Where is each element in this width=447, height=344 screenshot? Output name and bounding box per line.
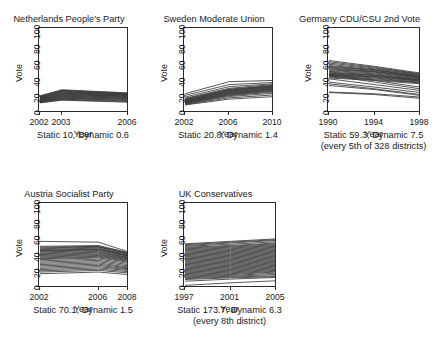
- series-line: [329, 73, 419, 80]
- y-tick-mark: [180, 61, 183, 62]
- series-line: [185, 248, 275, 252]
- series-line: [185, 281, 275, 286]
- series-line: [329, 76, 419, 82]
- x-tick-mark: [275, 287, 276, 290]
- series-line: [185, 243, 275, 247]
- series-line: [329, 73, 419, 80]
- series-line: [40, 255, 127, 260]
- series-line: [40, 264, 127, 268]
- y-tick-label: 60: [32, 236, 42, 246]
- series-line: [329, 79, 419, 91]
- x-axis-title: Year: [38, 129, 128, 139]
- panel-caption: Static 59.3, Dynamic 7.5: [295, 130, 447, 141]
- y-tick-mark: [35, 220, 38, 221]
- panel-netherlands-peoples-party: Netherlands People's Party020406080100Vo…: [0, 0, 447, 344]
- series-line: [40, 258, 127, 262]
- plot-area-austria-socialist-party: [38, 202, 128, 287]
- series-line: [185, 264, 275, 268]
- x-tick-mark: [272, 112, 273, 115]
- series-line: [40, 269, 127, 271]
- series-line: [329, 75, 419, 82]
- series-line: [185, 251, 275, 255]
- x-tick-mark: [39, 112, 40, 115]
- y-tick-mark: [35, 236, 38, 237]
- y-tick-mark: [180, 78, 183, 79]
- y-axis-title: Vote: [159, 238, 169, 256]
- series-line: [185, 253, 275, 257]
- series-line: [40, 246, 127, 253]
- series-line: [40, 247, 127, 254]
- series-line: [40, 251, 127, 257]
- series-line: [185, 84, 272, 97]
- x-tick-label: 2005: [265, 292, 284, 302]
- y-tick-mark: [35, 78, 38, 79]
- y-tick-mark: [180, 253, 183, 254]
- y-tick-label: 20: [177, 94, 187, 104]
- panel-title: Germany CDU/CSU 2nd Vote: [293, 14, 426, 25]
- series-line: [185, 266, 275, 270]
- y-tick-label: 80: [32, 44, 42, 54]
- series-lines: [328, 28, 419, 111]
- y-tick-label: 40: [32, 77, 42, 87]
- series-lines: [184, 28, 272, 111]
- series-line: [185, 276, 275, 279]
- series-line: [185, 80, 272, 93]
- series-line: [185, 91, 272, 103]
- y-tick-mark: [324, 94, 327, 95]
- series-line: [40, 272, 127, 274]
- panel-caption-sub: (every 8th district): [151, 316, 308, 327]
- series-line: [40, 90, 127, 96]
- series-line: [329, 66, 419, 76]
- series-line: [40, 262, 127, 266]
- series-line: [329, 67, 419, 76]
- y-tick-mark: [324, 45, 327, 46]
- series-line: [329, 74, 419, 81]
- series-line: [40, 246, 127, 253]
- series-line: [185, 95, 272, 105]
- series-line: [40, 259, 127, 263]
- y-tick-label: 40: [177, 77, 187, 87]
- x-tick-label: 1990: [318, 117, 337, 127]
- x-axis-title: Year: [38, 304, 128, 314]
- x-tick-mark: [61, 112, 62, 115]
- series-line: [40, 91, 127, 97]
- y-tick-label: 20: [177, 269, 187, 279]
- y-tick-label: 0: [177, 110, 187, 115]
- series-line: [40, 254, 127, 259]
- series-line: [40, 256, 127, 260]
- series-lines: [184, 203, 275, 286]
- series-line: [40, 97, 127, 101]
- series-line: [185, 93, 272, 104]
- x-tick-mark: [374, 112, 375, 115]
- series-line: [40, 92, 127, 97]
- x-tick-label: 2006: [88, 292, 107, 302]
- series-line: [185, 245, 275, 249]
- series-line: [329, 64, 419, 74]
- series-line: [185, 260, 275, 264]
- series-line: [185, 254, 275, 258]
- y-tick-label: 20: [32, 94, 42, 104]
- x-tick-mark: [230, 287, 231, 290]
- series-line: [185, 255, 275, 259]
- series-line: [185, 270, 275, 274]
- y-tick-mark: [324, 111, 327, 112]
- y-tick-mark: [35, 253, 38, 254]
- series-line: [329, 93, 419, 99]
- series-line: [185, 242, 275, 247]
- panel-caption: Static 20.8, Dynamic 1.4: [151, 130, 305, 141]
- panel-title: Netherlands People's Party: [4, 14, 134, 25]
- series-line: [40, 99, 127, 102]
- x-tick-label: 2006: [117, 117, 136, 127]
- series-line: [40, 249, 127, 255]
- series-line: [329, 61, 419, 73]
- y-tick-label: 100: [321, 25, 331, 39]
- series-line: [185, 259, 275, 263]
- x-tick-label: 2002: [174, 117, 193, 127]
- series-line: [329, 92, 419, 97]
- series-line: [185, 255, 275, 259]
- series-line: [40, 97, 127, 101]
- series-line: [185, 269, 275, 273]
- y-axis-title: Vote: [14, 63, 24, 81]
- x-tick-mark: [127, 287, 128, 290]
- series-line: [329, 63, 419, 74]
